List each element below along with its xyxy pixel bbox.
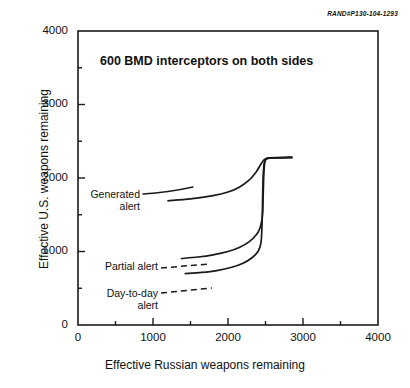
curve-generated-alert [168,157,292,200]
plot-frame [78,31,378,325]
leader-line-day-to-day-alert [161,288,212,293]
leader-line-generated-alert [143,187,193,194]
annotation-leader-lines [143,187,212,293]
plot-area [0,0,410,388]
curve-partial-alert [182,157,292,258]
figure-container: RAND#P130-104-1293 600 BMD interceptors … [0,0,410,388]
data-curves [168,157,292,273]
leader-line-partial-alert [161,264,209,268]
